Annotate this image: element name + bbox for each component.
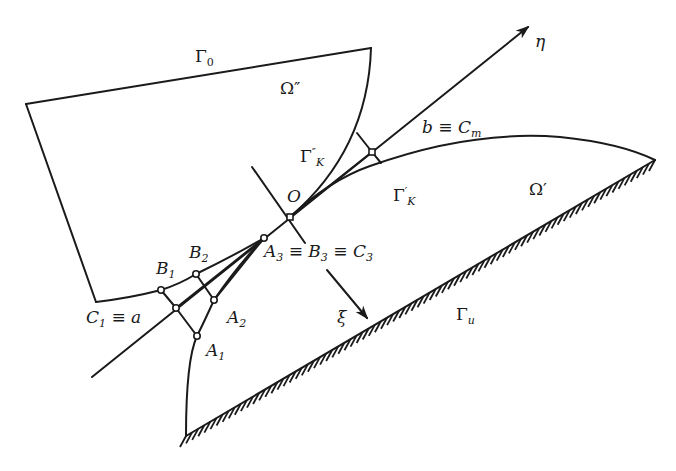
diagram-lines: /* hatches drawn by script below */ [0,0,676,471]
label-b2: B2 [189,244,209,264]
label-gamma-u: Γu [456,306,475,326]
node-origin [287,214,293,220]
label-a1: A1 [206,342,225,362]
gamma-u-wall [186,160,655,436]
node-mid [173,305,179,311]
node-b [369,149,375,155]
label-eta: η [535,33,545,50]
label-xi: ξ [337,309,346,326]
label-b-cm: b ≡ Cm [422,119,481,139]
label-b1: B1 [156,260,176,280]
label-c1-a: C1 ≡ a [86,309,141,329]
mesh-b2-a2 [196,274,214,300]
left-boundary [26,104,96,302]
node-b2 [193,271,199,277]
node-b1 [158,287,164,293]
label-gammaK-prime: Γ′K [393,186,416,207]
label-omega-double-prime: Ω″ [280,80,300,97]
xi-arrow [327,270,367,318]
gammaK-double-prime-curve [290,48,371,217]
label-gamma0: Γ0 [195,48,214,68]
label-origin: O [287,188,301,205]
label-a2: A2 [227,309,246,329]
mesh-ray-2 [214,238,264,300]
label-a3-b3-c3: A3 ≡ B3 ≡ C3 [264,243,373,263]
label-omega-prime: Ω′ [529,181,547,198]
node-a2 [211,297,217,303]
node-a1 [194,333,200,339]
characteristics-diagram: /* hatches drawn by script below */ Γ0 Ω… [0,0,676,471]
label-gammaK-double-prime: Γ″K [300,147,324,168]
